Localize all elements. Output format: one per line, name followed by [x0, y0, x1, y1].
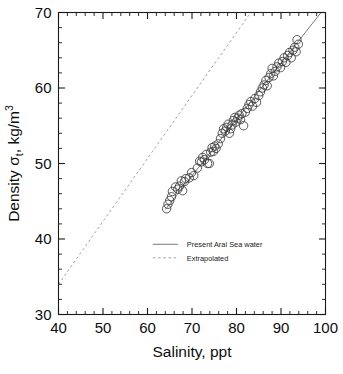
chart-legend: Present Aral Sea waterExtrapolated	[153, 240, 263, 262]
x-tick-label: 60	[139, 319, 156, 336]
data-point-marker	[203, 159, 211, 167]
chart-figure: 4050607080901003040506070Salinity, pptDe…	[0, 0, 343, 374]
y-tick-label: 40	[35, 230, 52, 247]
y-tick-label: 50	[35, 155, 52, 172]
x-tick-label: 40	[50, 319, 67, 336]
legend-label: Present Aral Sea water	[187, 240, 263, 249]
legend-label: Extrapolated	[187, 254, 229, 263]
scatter-marker-group	[162, 35, 302, 213]
y-tick-label: 60	[35, 79, 52, 96]
x-tick-label: 70	[184, 319, 201, 336]
x-tick-label: 50	[95, 319, 112, 336]
salinity-density-scatter-chart: 4050607080901003040506070Salinity, pptDe…	[0, 0, 343, 374]
data-point-marker	[216, 134, 224, 142]
y-axis-title: Density σt, kg/m3	[3, 105, 25, 222]
y-tick-label: 30	[35, 306, 52, 323]
x-tick-label: 100	[313, 319, 338, 336]
data-point-marker	[174, 185, 182, 193]
x-tick-label: 80	[228, 319, 245, 336]
x-tick-label: 90	[273, 319, 290, 336]
y-tick-label: 70	[35, 4, 52, 21]
x-axis-title: Salinity, ppt	[153, 343, 233, 360]
